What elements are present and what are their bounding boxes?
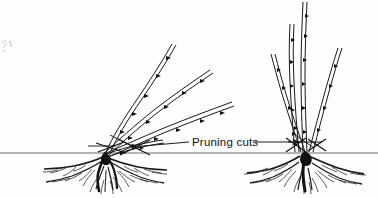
scan-artifact-left-edge — [2, 40, 11, 52]
right-plant-roots — [244, 151, 366, 194]
right-plant — [244, 2, 366, 194]
right-plant-canes — [271, 2, 342, 152]
pruning-cuts-label: Pruning cuts — [192, 136, 258, 148]
left-plant — [43, 44, 234, 194]
pruning-diagram — [0, 0, 378, 198]
illustration-canvas: Pruning cuts — [0, 0, 378, 198]
left-plant-roots — [43, 152, 167, 194]
